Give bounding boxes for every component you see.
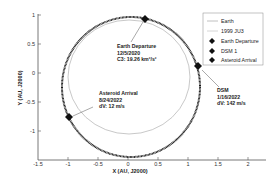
- dsm-arrow: [202, 70, 219, 87]
- y-tick-label: 1: [32, 12, 35, 18]
- svg-text:DSM: DSM: [217, 87, 229, 93]
- annotation-dsm: DSM 1/16/2022 dV: 142 m/s: [217, 87, 246, 106]
- x-tick-label: 1.5: [214, 161, 222, 167]
- departure-arrow: [131, 22, 143, 42]
- svg-text:Asteroid Arrival: Asteroid Arrival: [99, 90, 138, 96]
- markers: [65, 15, 202, 121]
- legend-departure-label: Earth Departure: [221, 38, 259, 44]
- svg-text:dV: 142 m/s: dV: 142 m/s: [217, 100, 246, 106]
- x-tick-label: 0.5: [154, 161, 162, 167]
- svg-text:1/16/2022: 1/16/2022: [217, 94, 240, 100]
- annotation-earth-departure: Earth Departure 12/5/2020 C3: 19.26 km²/…: [117, 43, 157, 62]
- y-ticks: [38, 15, 41, 131]
- earth-departure-marker: [141, 15, 149, 23]
- annotation-asteroid-arrival: Asteroid Arrival 8/24/2022 dV: 12 m/s: [99, 90, 138, 109]
- legend: Earth 1999 JU3 Earth Departure DSM 1 Ast…: [203, 13, 263, 65]
- legend-dsm-label: DSM 1: [221, 48, 237, 54]
- asteroid-orbit: [62, 17, 200, 157]
- svg-text:12/5/2020: 12/5/2020: [117, 50, 140, 56]
- y-tick-label: 0: [32, 70, 35, 76]
- svg-text:dV: 12 m/s: dV: 12 m/s: [99, 103, 125, 109]
- earth-orbit: [68, 20, 190, 134]
- asteroid-arrival-marker: [65, 113, 73, 121]
- legend-arrival-label: Asteroid Arrival: [221, 57, 257, 63]
- x-ticks: [68, 157, 248, 160]
- x-tick-label: -0.5: [93, 161, 102, 167]
- y-tick-label: 0.5: [27, 41, 35, 47]
- legend-asteroid-label: 1999 JU3: [221, 28, 244, 34]
- x-tick-label: 2: [246, 161, 249, 167]
- y-tick-label: -0.5: [26, 99, 35, 105]
- y-tick-label: -1: [30, 128, 35, 134]
- svg-text:Earth Departure: Earth Departure: [117, 43, 156, 49]
- x-tick-label: -1: [66, 161, 71, 167]
- x-tick-label: 1: [186, 161, 189, 167]
- legend-earth-label: Earth: [221, 18, 234, 24]
- svg-text:8/24/2022: 8/24/2022: [99, 97, 122, 103]
- dsm-marker: [194, 62, 202, 70]
- x-axis-title: X (AU, J2000): [112, 168, 147, 174]
- y-tick-label: -1.5: [33, 161, 42, 167]
- x-tick-label: 0: [126, 161, 129, 167]
- svg-text:C3: 19.26 km²/s²: C3: 19.26 km²/s²: [117, 56, 157, 62]
- trajectory-chart: 1 0.5 0 -0.5 -1 -1.5 -1 -0.5 0 0.5 1 1.5…: [0, 0, 280, 183]
- y-axis-title: Y (AU, J2000): [17, 70, 23, 105]
